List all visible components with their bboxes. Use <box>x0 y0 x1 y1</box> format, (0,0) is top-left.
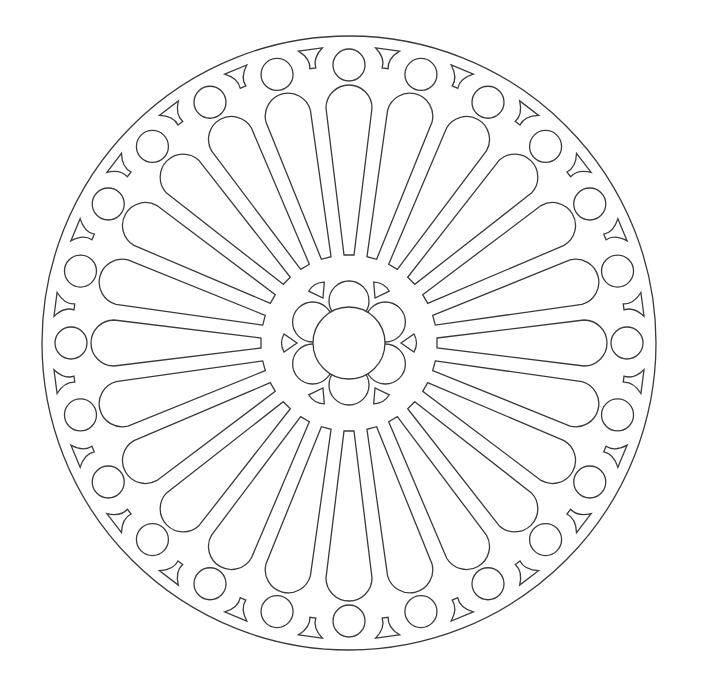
tracery-circle <box>194 568 226 600</box>
tracery-circle <box>92 466 124 498</box>
tracery-circle <box>602 255 634 287</box>
tracery-circle <box>611 327 643 359</box>
tracery-circle <box>333 605 365 637</box>
tracery-circle <box>602 399 634 431</box>
tracery-circle <box>64 255 96 287</box>
tracery-circle <box>92 188 124 220</box>
tracery-circle <box>136 130 168 162</box>
rosette-center <box>313 307 385 379</box>
rose-window-svg <box>0 0 708 690</box>
tracery-circle <box>55 327 87 359</box>
tracery-circle <box>333 49 365 81</box>
rose-window-drawing: Rose window line drawing <box>0 0 708 690</box>
tracery-circle <box>530 130 562 162</box>
tracery-circle <box>194 86 226 118</box>
tracery-circle <box>472 568 504 600</box>
tracery-circle <box>472 86 504 118</box>
tracery-circle <box>261 58 293 90</box>
tracery-circle <box>574 188 606 220</box>
tracery-circle <box>574 466 606 498</box>
tracery-circle <box>64 399 96 431</box>
tracery-circle <box>261 596 293 628</box>
tracery-circle <box>405 58 437 90</box>
tracery-circle <box>530 524 562 556</box>
tracery-circle <box>136 524 168 556</box>
tracery-circle <box>405 596 437 628</box>
